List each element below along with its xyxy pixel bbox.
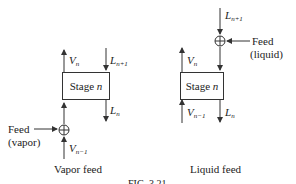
stage-box-vapor-feed: Stage n: [62, 72, 110, 100]
flow-lines: [0, 0, 296, 184]
caption-liquid-feed: Liquid feed: [190, 163, 241, 175]
caption-vapor-feed: Vapor feed: [54, 163, 102, 175]
stage-var: n: [213, 80, 219, 92]
label-l-in-left: Ln+1: [110, 55, 128, 68]
stage-label: Stage: [186, 80, 210, 92]
feed-label-vapor: Feed: [8, 124, 29, 135]
label-l-in-right: Ln+1: [225, 10, 243, 23]
stage-label: Stage: [70, 80, 94, 92]
label-v-in-left: Vn−1: [69, 143, 87, 156]
label-l-out-left: Ln: [110, 105, 120, 118]
label-v-out-right: Vn: [187, 55, 197, 68]
figure-caption: FIG. 3.21: [128, 178, 167, 184]
feed-phase-vapor: (vapor): [8, 137, 40, 148]
feed-phase-liquid: (liquid): [250, 49, 283, 60]
feed-label-liquid: Feed: [252, 36, 273, 47]
label-l-out-right: Ln: [225, 107, 235, 120]
label-v-out-left: Vn: [69, 55, 79, 68]
stage-var: n: [97, 80, 103, 92]
stage-box-liquid-feed: Stage n: [180, 72, 224, 100]
label-v-in-right: Vn−1: [187, 107, 205, 120]
